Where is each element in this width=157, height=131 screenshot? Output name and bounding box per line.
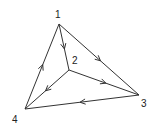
node-label-1: 1 (55, 9, 61, 20)
edge-2-4 (25, 70, 69, 109)
edge-4-1 (25, 24, 59, 109)
edge-1-3 (59, 24, 139, 95)
edge-3-4 (25, 95, 139, 109)
node-labels: 1234 (12, 9, 147, 125)
node-label-4: 4 (12, 114, 18, 125)
edges (25, 24, 139, 109)
node-label-3: 3 (141, 98, 147, 109)
edge-2-3 (69, 70, 139, 95)
directed-graph-diagram: 1234 (0, 0, 157, 131)
node-label-2: 2 (72, 55, 78, 66)
